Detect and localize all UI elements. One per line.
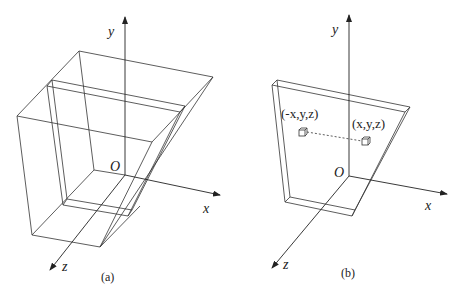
point-pos-x-cube-icon <box>362 137 370 145</box>
panel-b-caption: (b) <box>341 266 355 280</box>
origin-label: O <box>110 159 120 174</box>
axes-b <box>272 15 447 268</box>
panel-a: y x z O (a) <box>17 17 220 284</box>
z-axis-label: z <box>282 257 289 272</box>
z-axis-label: z <box>61 259 68 274</box>
x-axis <box>125 175 220 195</box>
point-neg-x-label: (-x,y,z) <box>281 106 318 121</box>
thin-plate <box>272 80 410 216</box>
frustum-wireframe <box>17 51 213 247</box>
point-neg-x-cube-icon <box>299 128 307 136</box>
x-axis-label: x <box>424 198 432 213</box>
panel-b: (-x,y,z) (x,y,z) y x z O (b) <box>272 15 447 280</box>
diagram-canvas: y x z O (a) <box>0 0 464 290</box>
x-axis-label: x <box>202 201 210 216</box>
panel-a-caption: (a) <box>101 270 114 284</box>
symmetry-dashed-line <box>307 132 362 141</box>
origin-label: O <box>334 165 344 180</box>
point-pos-x-label: (x,y,z) <box>352 116 385 131</box>
y-axis-label: y <box>330 22 339 37</box>
y-axis-label: y <box>106 24 115 39</box>
x-axis <box>349 176 447 194</box>
